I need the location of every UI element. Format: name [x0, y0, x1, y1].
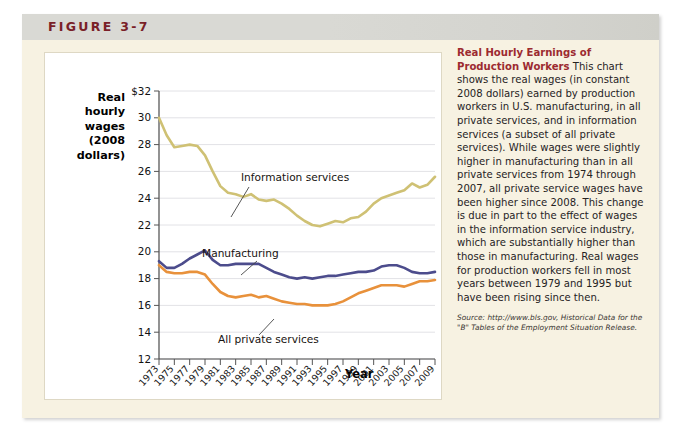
y-tick-label: 14: [138, 326, 152, 338]
caption-text: Real Hourly Earnings of Production Worke…: [457, 46, 645, 304]
annotation-leader-line: [231, 187, 249, 217]
y-tick-label: 18: [138, 272, 151, 284]
y-axis-ticks: $3230282624222018161412: [131, 85, 159, 365]
line-chart-plot: $3230282624222018161412 1973197519771979…: [45, 53, 443, 401]
data-series-lines: [159, 118, 435, 306]
grid-lines: [159, 91, 435, 359]
series-line: [159, 265, 435, 305]
y-tick-label: 22: [138, 219, 151, 231]
header-band-fade: [329, 14, 659, 40]
series-annotation-label: Manufacturing: [202, 247, 279, 259]
y-tick-label: 30: [138, 111, 151, 123]
y-tick-label: 26: [138, 165, 151, 177]
y-tick-label: 20: [138, 245, 151, 257]
series-line: [159, 250, 435, 278]
caption-column: Real Hourly Earnings of Production Worke…: [457, 46, 645, 406]
figure-header-band: FIGURE 3-7: [22, 14, 659, 40]
series-annotation-label: Information services: [241, 171, 349, 183]
figure-panel: FIGURE 3-7 Real hourly wages (2008 dolla…: [22, 14, 659, 418]
y-tick-label: 12: [138, 353, 151, 365]
y-tick-label: 28: [138, 138, 151, 150]
y-tick-label: 24: [138, 192, 152, 204]
y-tick-label: $32: [131, 85, 151, 97]
y-tick-label: 16: [138, 299, 151, 311]
chart-card: Real hourly wages (2008 dollars) Year $3…: [44, 52, 442, 400]
figure-number-label: FIGURE 3-7: [48, 19, 150, 34]
caption-body-text: This chart shows the real wages (in cons…: [457, 61, 644, 303]
figure-root: FIGURE 3-7 Real hourly wages (2008 dolla…: [0, 0, 673, 432]
series-annotation-label: All private services: [218, 333, 319, 345]
caption-source: Source: http://www.bls.gov, Historical D…: [457, 313, 645, 332]
x-axis-ticks: 1973197519771979198119831985198719891991…: [136, 359, 436, 388]
series-annotations: Information servicesManufacturingAll pri…: [202, 171, 349, 345]
